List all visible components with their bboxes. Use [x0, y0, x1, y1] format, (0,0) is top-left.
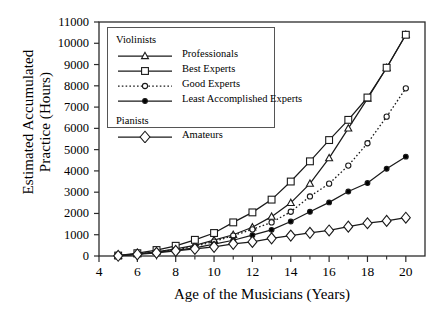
legend-group-heading: Pianists	[116, 115, 149, 126]
data-point-marker	[327, 200, 332, 205]
chart-legend: ViolinistsProfessionalsBest ExpertsGood …	[107, 27, 275, 128]
data-point-marker	[384, 166, 389, 171]
data-point-marker	[384, 114, 389, 119]
legend-item-good-experts[interactable]: Good Experts	[116, 79, 271, 92]
legend-marker-sample	[116, 79, 176, 92]
data-point-marker	[344, 221, 353, 232]
legend-item-label: Best Experts	[182, 63, 235, 74]
legend-marker-sample	[116, 94, 176, 107]
data-point-marker	[326, 137, 333, 144]
data-point-marker	[402, 31, 409, 38]
data-point-marker	[364, 94, 371, 101]
data-point-marker	[308, 209, 313, 214]
data-point-marker	[268, 196, 275, 203]
data-point-marker	[403, 86, 408, 91]
legend-marker-sample	[116, 49, 176, 62]
data-point-marker	[230, 219, 237, 226]
data-point-marker	[307, 194, 312, 199]
data-point-marker	[287, 178, 294, 185]
data-point-marker	[288, 209, 293, 214]
data-point-marker	[365, 181, 370, 186]
legend-marker-sample	[116, 64, 176, 77]
data-point-marker	[288, 219, 293, 224]
data-point-marker	[346, 163, 351, 168]
legend-item-label: Least Accomplished Experts	[182, 93, 302, 104]
data-point-marker	[286, 230, 295, 241]
data-point-marker	[382, 215, 391, 226]
data-point-marker	[305, 227, 314, 238]
data-point-marker	[269, 227, 274, 232]
data-point-marker	[363, 218, 372, 229]
data-point-marker	[401, 212, 410, 223]
legend-marker-sample	[116, 130, 176, 143]
legend-item-least-accomplished-experts[interactable]: Least Accomplished Experts	[116, 94, 271, 107]
data-point-marker	[383, 64, 390, 71]
legend-marker-icon	[143, 99, 148, 104]
legend-item-label: Amateurs	[182, 129, 223, 140]
data-point-marker	[365, 141, 370, 146]
data-point-marker	[403, 154, 408, 159]
data-point-marker	[346, 189, 351, 194]
legend-marker-icon	[142, 68, 149, 75]
data-point-marker	[211, 230, 218, 237]
data-point-marker	[191, 236, 198, 243]
data-point-marker	[249, 209, 256, 216]
data-point-marker	[269, 220, 274, 225]
legend-item-best-experts[interactable]: Best Experts	[116, 64, 271, 77]
data-point-marker	[268, 213, 275, 219]
legend-item-amateurs[interactable]: Amateurs	[116, 130, 271, 143]
data-point-marker	[325, 225, 334, 236]
data-point-marker	[248, 237, 257, 248]
legend-marker-icon	[140, 131, 150, 142]
data-point-marker	[250, 227, 255, 232]
legend-item-label: Good Experts	[182, 78, 240, 89]
series-amateurs	[114, 212, 411, 261]
legend-item-professionals[interactable]: Professionals	[116, 49, 271, 62]
data-point-marker	[327, 181, 332, 186]
legend-item-label: Professionals	[182, 48, 238, 59]
legend-group-heading: Violinists	[116, 34, 156, 45]
chart-figure: Estimated Accumulated Practice (Hours) A…	[0, 0, 439, 311]
legend-marker-icon	[142, 83, 147, 88]
data-point-marker	[345, 116, 352, 123]
data-point-marker	[267, 233, 276, 244]
data-point-marker	[307, 158, 314, 165]
